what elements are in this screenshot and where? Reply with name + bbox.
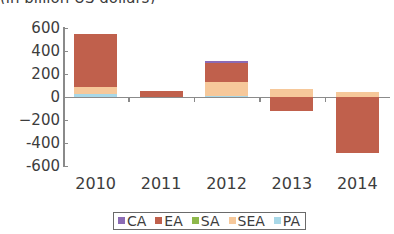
bar-segment xyxy=(205,63,248,82)
y-axis-labels: 6004002000−200-400-600 xyxy=(0,0,60,180)
x-tick-label: 2012 xyxy=(196,176,258,192)
legend-swatch-icon xyxy=(118,217,125,224)
y-tick-mark xyxy=(63,120,68,121)
y-tick-label: -400 xyxy=(2,136,60,151)
legend-item-ca[interactable]: CA xyxy=(118,214,146,228)
legend-item-sea[interactable]: SEA xyxy=(229,214,265,228)
x-tick-mark xyxy=(63,97,64,102)
y-tick-label: -600 xyxy=(2,159,60,174)
x-tick-mark xyxy=(259,97,260,102)
y-tick-mark xyxy=(63,51,68,52)
legend-swatch-icon xyxy=(192,217,199,224)
bar-segment xyxy=(336,97,379,153)
legend-label: SA xyxy=(201,214,220,228)
x-tick-label: 2011 xyxy=(130,176,192,192)
bar-segment xyxy=(270,97,313,111)
y-tick-mark xyxy=(63,143,68,144)
y-tick-label: 600 xyxy=(2,21,60,36)
x-tick-mark xyxy=(194,97,195,102)
legend-swatch-icon xyxy=(155,217,162,224)
legend-label: PA xyxy=(283,214,300,228)
y-tick-label: 0 xyxy=(2,90,60,105)
bar-segment xyxy=(74,87,117,94)
y-tick-label: −200 xyxy=(2,113,60,128)
bar-segment xyxy=(140,91,183,97)
x-tick-mark xyxy=(325,97,326,102)
y-tick-label: 400 xyxy=(2,44,60,59)
legend-swatch-icon xyxy=(229,217,236,224)
legend-label: SEA xyxy=(238,214,265,228)
x-tick-label: 2013 xyxy=(261,176,323,192)
legend-label: CA xyxy=(127,214,146,228)
chart-figure: (in billion US dollars) 6004002000−200-4… xyxy=(0,0,394,234)
legend-swatch-icon xyxy=(274,217,281,224)
chart-legend: CAEASASEAPA xyxy=(113,212,306,230)
y-tick-mark xyxy=(63,166,68,167)
y-tick-mark xyxy=(63,74,68,75)
y-tick-mark xyxy=(63,28,68,29)
legend-item-pa[interactable]: PA xyxy=(274,214,300,228)
legend-item-ea[interactable]: EA xyxy=(155,214,182,228)
x-tick-mark xyxy=(128,97,129,102)
y-tick-label: 200 xyxy=(2,67,60,82)
legend-label: EA xyxy=(164,214,182,228)
bar-segment xyxy=(270,89,313,97)
bar-segment xyxy=(205,61,248,63)
bar-segment xyxy=(74,94,117,97)
bar-segment xyxy=(74,34,117,87)
x-tick-label: 2014 xyxy=(326,176,388,192)
bar-segment xyxy=(205,82,248,96)
bar-segment xyxy=(205,96,248,97)
x-tick-label: 2010 xyxy=(65,176,127,192)
legend-item-sa[interactable]: SA xyxy=(192,214,220,228)
